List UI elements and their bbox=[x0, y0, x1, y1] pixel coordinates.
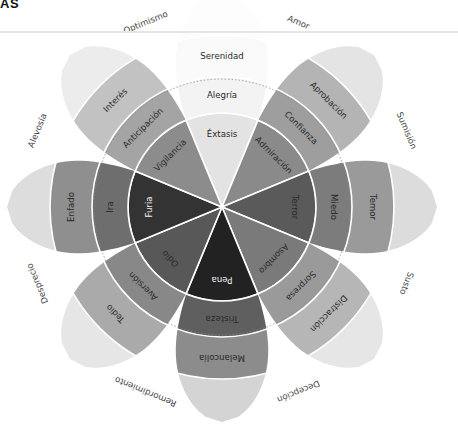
label-basic: Tristeza bbox=[206, 314, 240, 324]
label-basic: Alegría bbox=[207, 90, 237, 100]
label-basic: Miedo bbox=[329, 194, 339, 220]
label-intense: Furia bbox=[144, 196, 154, 217]
label-mild: Melancolía bbox=[199, 353, 245, 363]
label-mild: Temor bbox=[368, 193, 378, 221]
dyad-label-desprecio: Desprecio bbox=[24, 262, 50, 305]
label-mild: Serenidad bbox=[200, 51, 243, 61]
dyad-label-amor: Amor bbox=[286, 13, 312, 31]
dyad-label-sumisión: Sumisión bbox=[395, 110, 419, 150]
label-intense: Pena bbox=[212, 275, 233, 285]
label-intense: Éxtasis bbox=[207, 128, 238, 139]
label-mild: Enfado bbox=[66, 192, 76, 222]
label-intense: Terror bbox=[290, 194, 300, 220]
dyad-label-remordimiento: Remordimiento bbox=[113, 375, 178, 409]
label-basic: Ira bbox=[105, 201, 115, 212]
emotion-wheel: ÉxtasisAlegríaSerenidadAdmiraciónConfian… bbox=[0, 0, 458, 442]
dyad-label-alevosía: Alevosía bbox=[26, 112, 49, 149]
petals-layer: ÉxtasisAlegríaSerenidadAdmiraciónConfian… bbox=[7, 0, 437, 422]
dyad-label-susto: Susto bbox=[398, 271, 416, 297]
dyad-label-decepción: Decepción bbox=[276, 379, 322, 406]
